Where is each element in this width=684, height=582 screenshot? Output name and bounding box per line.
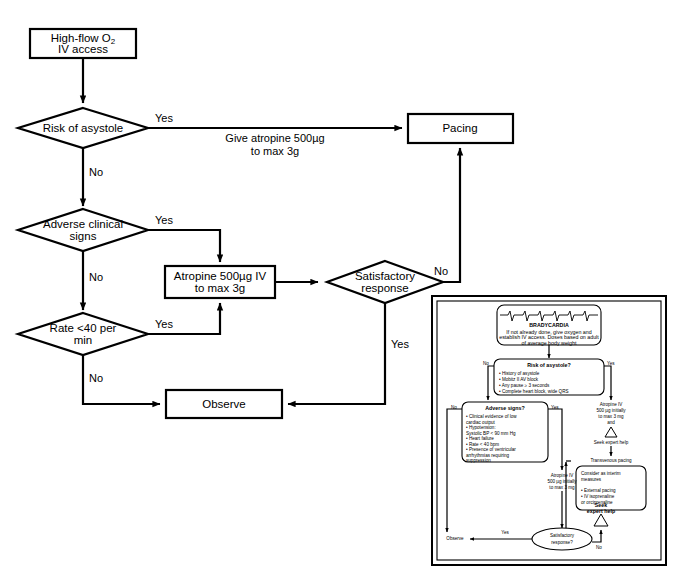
label-satisfactory-no: No bbox=[434, 265, 448, 277]
inset-risk-b3: • Complete heart block, wide QRS bbox=[499, 389, 569, 394]
label-satisfactory-yes: Yes bbox=[391, 338, 409, 350]
node-atropine-500ug-iv: Atropine 500µg IV to max 3g bbox=[165, 266, 275, 298]
inset-interim-b2: • IV isoprenaline bbox=[581, 494, 615, 499]
inset-atropine-m-l2: 500 µg initially bbox=[547, 479, 577, 484]
inset-atropine-r-l2: 500 µg initially bbox=[596, 408, 626, 413]
node-observe: Observe bbox=[166, 390, 282, 418]
label-rate-no: No bbox=[89, 372, 103, 384]
label-give-atropine-l2: to max 3g bbox=[251, 145, 299, 157]
inset-adv-b2: • Hypotension: bbox=[466, 425, 496, 430]
observe-label: Observe bbox=[202, 398, 245, 410]
label-risk-yes: Yes bbox=[155, 112, 173, 124]
satisfactory-l1: Satisfactory bbox=[355, 270, 415, 282]
flowchart-canvas: High-flow O2 IV access Risk of asystole … bbox=[0, 0, 684, 582]
inset-adv-b6: • Presence of ventricular bbox=[466, 447, 516, 452]
inset-seek-help-right: Seek expert help bbox=[594, 440, 629, 445]
node-adverse-clinical-signs: Adverse clinical signs bbox=[18, 209, 148, 251]
inset-satisfactory-l2: response? bbox=[551, 540, 573, 545]
inset-atropine-m-l1: Atropine IV bbox=[551, 473, 575, 478]
inset-adv-b1: cardiac output bbox=[466, 420, 496, 425]
inset-atropine-m-l3: to max 3 mg bbox=[549, 485, 575, 490]
inset-risk-title: Risk of asystole? bbox=[527, 362, 571, 368]
start-line1: High-flow O bbox=[51, 32, 111, 44]
inset-adv-b0: • Clinical evidence of low bbox=[466, 414, 517, 419]
inset-brady-title: BRADYCARDIA bbox=[529, 322, 569, 328]
label-rate-yes: Yes bbox=[155, 318, 173, 330]
inset-panel: BRADYCARDIA If not already done, give ox… bbox=[432, 296, 666, 565]
label-adverse-yes: Yes bbox=[155, 214, 173, 226]
rate40-l1: Rate <40 per bbox=[50, 322, 117, 334]
inset-observe: Observe bbox=[446, 536, 464, 541]
risk-asystole-label: Risk of asystole bbox=[43, 122, 124, 134]
label-adverse-no: No bbox=[89, 271, 103, 283]
inset-interim-l1: Consider as interim bbox=[581, 471, 621, 476]
inset-risk-b0: • History of asystole bbox=[499, 371, 540, 376]
inset-node-bradycardia: BRADYCARDIA If not already done, give ox… bbox=[497, 305, 601, 346]
rate40-l2: min bbox=[74, 334, 93, 346]
inset-adv-b8: suppression bbox=[466, 458, 491, 463]
atropine-l2: to max 3g bbox=[195, 282, 246, 294]
inset-node-atropine-mid: Atropine IV 500 µg initially to max 3 mg bbox=[547, 473, 577, 490]
inset-adv-b3: Systolic BP < 90 mm Hg bbox=[466, 431, 516, 436]
inset-risk-b2: • Any pause ≥ 3 seconds bbox=[499, 383, 550, 388]
label-risk-no: No bbox=[89, 166, 103, 178]
start-line2: IV access bbox=[58, 43, 108, 55]
node-risk-of-asystole: Risk of asystole bbox=[18, 108, 148, 148]
flowchart-svg: High-flow O2 IV access Risk of asystole … bbox=[0, 0, 684, 582]
label-give-atropine-l1: Give atropine 500µg bbox=[225, 132, 324, 144]
inset-node-satisfactory-response: Satisfactory response? bbox=[532, 528, 592, 550]
inset-adverse-title: Adverse signs? bbox=[485, 405, 524, 411]
inset-risk-b1: • Mobitz II AV block bbox=[499, 377, 539, 382]
atropine-l1: Atropine 500µg IV bbox=[174, 270, 267, 282]
inset-atropine-r-l4: and bbox=[607, 420, 615, 425]
start-sub: 2 bbox=[111, 37, 116, 46]
inset-adv-b4: • Heart failure bbox=[466, 436, 494, 441]
inset-atropine-r-l1: Atropine IV bbox=[600, 402, 624, 407]
inset-node-adverse-signs: Adverse signs? • Clinical evidence of lo… bbox=[462, 402, 548, 463]
inset-atropine-r-l3: to max 3 mg bbox=[598, 414, 624, 419]
inset-seek-bottom-l2: expert help bbox=[587, 508, 616, 514]
adverse-signs-l2: signs bbox=[70, 230, 97, 242]
inset-interim-l2: measures bbox=[581, 477, 602, 482]
node-pacing: Pacing bbox=[408, 114, 513, 143]
pacing-label: Pacing bbox=[442, 122, 477, 134]
adverse-signs-l1: Adverse clinical bbox=[43, 218, 123, 230]
satisfactory-l2: response bbox=[361, 282, 408, 294]
inset-node-risk-of-asystole: Risk of asystole? • History of asystole … bbox=[494, 359, 604, 395]
inset-interim-b1: • External pacing bbox=[581, 488, 616, 493]
node-high-flow-o2: High-flow O2 IV access bbox=[30, 29, 136, 58]
node-rate-under-40: Rate <40 per min bbox=[18, 313, 148, 355]
inset-yes-label: Yes bbox=[501, 530, 509, 535]
inset-node-interim-measures: Consider as interim measures • External … bbox=[576, 466, 646, 510]
inset-transvenous-pacing: Transvenous pacing bbox=[590, 458, 632, 463]
inset-adv-b5: • Rate < 40 bpm bbox=[466, 442, 499, 447]
inset-satisfactory-l1: Satisfactory bbox=[550, 533, 575, 538]
node-satisfactory-response: Satisfactory response bbox=[327, 261, 443, 303]
inset-adv-b7: arrhythmias requiring bbox=[466, 453, 510, 458]
inset-no-label: No bbox=[596, 545, 602, 550]
